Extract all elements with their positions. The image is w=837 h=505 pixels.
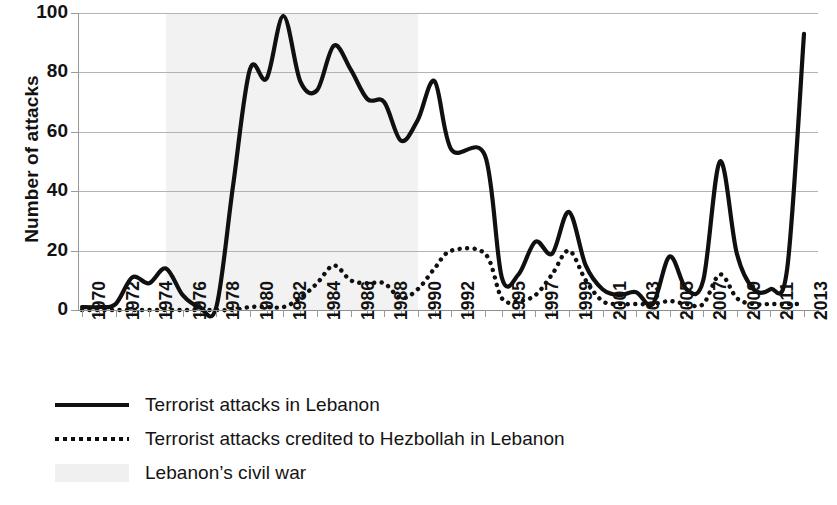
x-tick-mark xyxy=(116,310,117,317)
x-tick-mark xyxy=(418,310,419,317)
series-lines xyxy=(78,13,818,310)
legend-item-attacks-lebanon: Terrorist attacks in Lebanon xyxy=(55,388,755,422)
x-tick-mark xyxy=(535,310,536,317)
x-tick-mark xyxy=(569,310,570,317)
x-tick-mark xyxy=(636,310,637,317)
x-tick-mark xyxy=(82,310,83,317)
y-tick-label: 20 xyxy=(0,239,68,261)
x-tick-label: 1997 xyxy=(542,281,563,320)
dotted-line-swatch-icon xyxy=(55,430,129,448)
x-tick-mark xyxy=(250,310,251,317)
y-tick-mark xyxy=(71,13,78,14)
legend-item-attacks-hezbollah: Terrorist attacks credited to Hezbollah … xyxy=(55,422,755,456)
y-tick-label: 100 xyxy=(0,1,68,23)
x-tick-label: 1988 xyxy=(391,281,412,320)
legend-label: Terrorist attacks in Lebanon xyxy=(145,394,380,416)
x-tick-mark xyxy=(149,310,150,317)
solid-line-swatch-icon xyxy=(55,396,129,414)
legend: Terrorist attacks in Lebanon Terrorist a… xyxy=(55,388,755,490)
x-tick-label: 1978 xyxy=(223,281,244,320)
x-tick-label: 1984 xyxy=(324,281,345,320)
x-tick-label: 1999 xyxy=(576,281,597,320)
x-tick-mark xyxy=(283,310,284,317)
y-tick-label: 40 xyxy=(0,179,68,201)
x-tick-label: 1976 xyxy=(190,281,211,320)
x-tick-label: 1990 xyxy=(425,281,446,320)
x-tick-label: 2003 xyxy=(643,281,664,320)
x-tick-label: 2005 xyxy=(677,281,698,320)
y-tick-label: 60 xyxy=(0,120,68,142)
x-tick-mark xyxy=(351,310,352,317)
x-tick-mark xyxy=(703,310,704,317)
x-tick-label: 1970 xyxy=(89,281,110,320)
x-tick-label: 2007 xyxy=(710,281,731,320)
legend-label: Terrorist attacks credited to Hezbollah … xyxy=(145,428,565,450)
x-tick-label: 1986 xyxy=(358,281,379,320)
x-tick-mark xyxy=(451,310,452,317)
x-tick-mark xyxy=(737,310,738,317)
x-tick-label: 1972 xyxy=(123,281,144,320)
y-tick-mark xyxy=(71,310,78,311)
x-tick-mark xyxy=(485,310,486,317)
x-tick-label: 2013 xyxy=(811,281,832,320)
legend-label: Lebanon’s civil war xyxy=(145,462,306,484)
x-tick-label: 2009 xyxy=(744,281,765,320)
x-tick-label: 1992 xyxy=(458,281,479,320)
x-tick-mark xyxy=(670,310,671,317)
chart-container: Number of attacks 020406080100 197019721… xyxy=(0,0,837,505)
x-tick-mark xyxy=(804,310,805,317)
y-tick-label: 0 xyxy=(0,298,68,320)
x-tick-label: 1982 xyxy=(290,281,311,320)
y-tick-mark xyxy=(71,72,78,73)
y-tick-mark xyxy=(71,132,78,133)
y-tick-mark xyxy=(71,191,78,192)
x-tick-label: 2011 xyxy=(777,282,798,320)
x-tick-mark xyxy=(183,310,184,317)
series-line-1 xyxy=(82,16,804,317)
x-tick-mark xyxy=(317,310,318,317)
x-tick-mark xyxy=(502,310,503,317)
x-tick-label: 1995 xyxy=(509,281,530,320)
y-axis-line xyxy=(78,13,79,311)
x-tick-mark xyxy=(770,310,771,317)
shaded-band-swatch-icon xyxy=(55,464,129,482)
y-tick-label: 80 xyxy=(0,60,68,82)
x-tick-label: 1980 xyxy=(257,281,278,320)
x-tick-mark xyxy=(216,310,217,317)
legend-item-civil-war: Lebanon’s civil war xyxy=(55,456,755,490)
plot-area xyxy=(78,13,818,310)
x-tick-label: 2001 xyxy=(610,281,631,320)
x-tick-mark xyxy=(603,310,604,317)
x-tick-label: 1974 xyxy=(156,281,177,320)
x-tick-mark xyxy=(384,310,385,317)
y-tick-mark xyxy=(71,251,78,252)
